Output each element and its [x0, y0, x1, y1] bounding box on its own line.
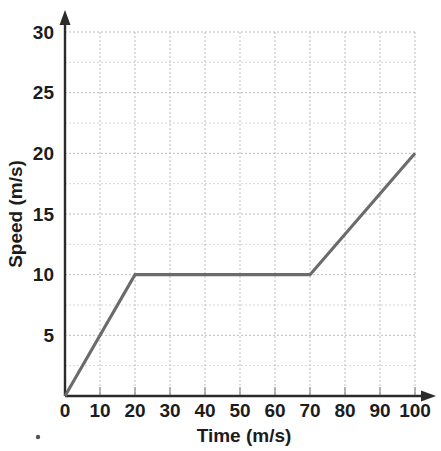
y-tick-label: 15	[33, 204, 55, 225]
y-axis-title: Speed (m/s)	[5, 160, 26, 268]
x-tick-label: 0	[60, 400, 71, 421]
page-speck	[36, 435, 40, 439]
y-tick-label: 10	[33, 264, 54, 285]
x-tick-label: 100	[399, 400, 431, 421]
x-tick-label: 10	[89, 400, 110, 421]
y-tick-label: 20	[33, 143, 54, 164]
y-tick-label: 30	[33, 22, 54, 43]
chart-canvas: 0102030405060708090100 51015202530 Time …	[0, 0, 441, 451]
x-tick-label: 80	[334, 400, 355, 421]
x-axis-title: Time (m/s)	[197, 425, 292, 446]
y-tick-label: 5	[43, 325, 54, 346]
x-tick-label: 70	[299, 400, 320, 421]
x-tick-label: 60	[264, 400, 285, 421]
speed-time-chart: 0102030405060708090100 51015202530 Time …	[0, 0, 441, 451]
x-tick-label: 20	[124, 400, 145, 421]
x-tick-label: 40	[194, 400, 215, 421]
x-tick-label: 50	[229, 400, 250, 421]
x-tick-label: 90	[369, 400, 390, 421]
x-tick-label: 30	[159, 400, 180, 421]
y-tick-label: 25	[33, 82, 55, 103]
